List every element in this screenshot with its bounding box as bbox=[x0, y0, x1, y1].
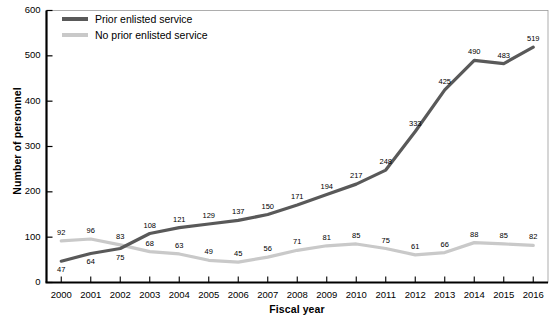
data-point-label: 88 bbox=[461, 230, 487, 239]
data-point-label: 333 bbox=[402, 119, 428, 128]
data-point-label: 45 bbox=[225, 249, 251, 258]
data-point-label: 519 bbox=[520, 34, 546, 43]
data-point-label: 490 bbox=[461, 47, 487, 56]
data-point-label: 194 bbox=[314, 182, 340, 191]
legend-label: No prior enlisted service bbox=[95, 29, 208, 41]
y-tick-label: 300 bbox=[7, 140, 41, 151]
data-point-label: 121 bbox=[166, 215, 192, 224]
x-axis-title: Fiscal year bbox=[46, 303, 548, 315]
data-point-label: 85 bbox=[491, 231, 517, 240]
data-point-label: 75 bbox=[107, 253, 133, 262]
y-tick-label: 600 bbox=[7, 4, 41, 15]
data-point-label: 66 bbox=[432, 240, 458, 249]
data-point-label: 56 bbox=[255, 244, 281, 253]
legend-label: Prior enlisted service bbox=[95, 13, 192, 25]
line-chart: Number of personnel Fiscal year 01002003… bbox=[0, 0, 556, 322]
data-point-label: 71 bbox=[284, 237, 310, 246]
legend-swatch-icon bbox=[62, 33, 88, 37]
data-point-label: 83 bbox=[107, 232, 133, 241]
data-point-label: 63 bbox=[166, 241, 192, 250]
data-point-label: 483 bbox=[491, 51, 517, 60]
legend-swatch-icon bbox=[62, 17, 88, 21]
data-point-label: 81 bbox=[314, 233, 340, 242]
data-point-label: 75 bbox=[373, 236, 399, 245]
x-tick-label: 2016 bbox=[513, 289, 553, 300]
data-point-label: 49 bbox=[196, 247, 222, 256]
data-point-label: 96 bbox=[78, 226, 104, 235]
data-point-label: 64 bbox=[78, 257, 104, 266]
data-point-label: 47 bbox=[48, 265, 74, 274]
y-tick-label: 0 bbox=[7, 276, 41, 287]
data-point-label: 171 bbox=[284, 192, 310, 201]
data-point-label: 129 bbox=[196, 211, 222, 220]
data-point-label: 82 bbox=[520, 232, 546, 241]
data-point-label: 217 bbox=[343, 171, 369, 180]
data-point-label: 137 bbox=[225, 207, 251, 216]
y-tick-label: 100 bbox=[7, 231, 41, 242]
y-tick-label: 400 bbox=[7, 95, 41, 106]
data-point-label: 92 bbox=[48, 228, 74, 237]
data-point-label: 108 bbox=[137, 221, 163, 230]
data-point-label: 61 bbox=[402, 242, 428, 251]
data-point-label: 425 bbox=[432, 77, 458, 86]
data-point-label: 248 bbox=[373, 157, 399, 166]
y-tick-label: 200 bbox=[7, 185, 41, 196]
y-tick-label: 500 bbox=[7, 49, 41, 60]
legend-item: No prior enlisted service bbox=[62, 29, 208, 41]
data-point-label: 150 bbox=[255, 202, 281, 211]
data-point-label: 85 bbox=[343, 231, 369, 240]
legend-item: Prior enlisted service bbox=[62, 13, 192, 25]
data-point-label: 68 bbox=[137, 239, 163, 248]
